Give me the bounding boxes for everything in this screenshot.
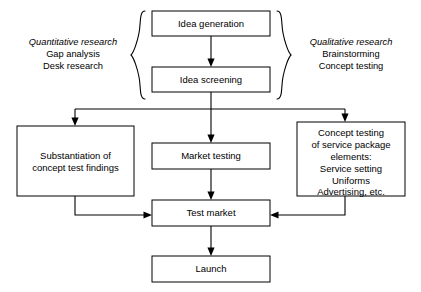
flowchart-diagram: Idea generation Idea screening Substanti… xyxy=(0,0,421,292)
node-idea-screening-label: Idea screening xyxy=(180,74,242,85)
annotation-left-line-1: Gap analysis xyxy=(46,49,100,59)
connector-substantiation-to-test-market xyxy=(75,196,152,219)
connector-test-market-to-launch xyxy=(207,226,214,256)
node-substantiation-line-2: concept test findings xyxy=(32,162,119,173)
annotation-right-title: Qualitative research xyxy=(310,37,393,47)
node-substantiation-line-1: Substantiation of xyxy=(40,150,111,161)
connector-idea-generation-to-idea-screening xyxy=(207,36,214,67)
right-curly-brace xyxy=(277,11,291,99)
node-idea-generation[interactable]: Idea generation xyxy=(152,11,270,36)
node-idea-generation-label: Idea generation xyxy=(178,18,244,29)
diagram-canvas: Idea generation Idea screening Substanti… xyxy=(0,0,421,292)
node-concept-testing-line-4: Service setting xyxy=(320,163,382,174)
annotation-left-title: Quantitative research xyxy=(29,37,117,47)
connector-market-testing-to-test-market xyxy=(207,169,214,200)
connector-concept-testing-to-test-market xyxy=(270,196,345,219)
node-concept-testing-line-3: elements: xyxy=(330,151,371,162)
node-launch[interactable]: Launch xyxy=(152,256,270,282)
node-market-testing[interactable]: Market testing xyxy=(152,143,270,169)
node-concept-testing[interactable]: Concept testing of service package eleme… xyxy=(297,122,405,197)
annotation-right-qualitative-research: Qualitative research Brainstorming Conce… xyxy=(310,37,393,71)
node-substantiation[interactable]: Substantiation of concept test findings xyxy=(17,126,134,196)
annotation-left-line-2: Desk research xyxy=(43,61,103,71)
annotation-left-quantitative-research: Quantitative research Gap analysis Desk … xyxy=(29,37,117,71)
node-idea-screening[interactable]: Idea screening xyxy=(152,67,270,92)
annotation-right-line-1: Brainstorming xyxy=(322,49,379,59)
node-concept-testing-line-1: Concept testing xyxy=(318,127,384,138)
node-test-market-label: Test market xyxy=(186,207,235,218)
left-curly-brace xyxy=(131,11,145,99)
annotation-right-line-2: Concept testing xyxy=(319,61,384,71)
node-test-market[interactable]: Test market xyxy=(152,200,270,226)
node-concept-testing-line-6: Advertising, etc. xyxy=(317,186,385,197)
node-launch-label: Launch xyxy=(195,263,226,274)
node-market-testing-label: Market testing xyxy=(181,150,241,161)
node-concept-testing-line-2: of service package xyxy=(311,139,390,150)
node-concept-testing-line-5: Uniforms xyxy=(332,175,370,186)
